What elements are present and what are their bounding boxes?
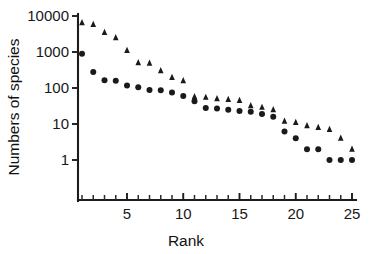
data-point-circle xyxy=(102,77,108,83)
data-point-circle xyxy=(237,108,243,114)
x-tick-label: 10 xyxy=(175,205,192,222)
data-point-triangle xyxy=(237,97,243,103)
data-point-triangle xyxy=(180,77,186,83)
data-point-triangle xyxy=(90,21,96,27)
data-point-triangle xyxy=(304,122,310,128)
data-point-triangle xyxy=(349,145,355,151)
data-point-triangle xyxy=(338,135,344,141)
y-tick-label: 1000 xyxy=(36,43,69,60)
data-point-triangle xyxy=(147,59,153,65)
y-tick-label: 10 xyxy=(52,115,69,132)
data-point-triangle xyxy=(327,126,333,132)
data-point-circle xyxy=(225,107,231,113)
data-point-circle xyxy=(349,157,355,163)
x-tick-label: 20 xyxy=(287,205,304,222)
x-axis-tick-labels: 510152025 xyxy=(123,205,361,222)
data-point-triangle xyxy=(113,34,119,40)
data-point-triangle xyxy=(135,59,141,65)
y-tick-label: 10000 xyxy=(27,7,69,24)
y-tick-label: 100 xyxy=(44,79,69,96)
chart-figure: 110100100010000 510152025 Rank Numbers o… xyxy=(0,0,369,254)
data-point-triangle xyxy=(225,96,231,102)
data-point-triangle xyxy=(293,119,299,125)
data-point-triangle xyxy=(169,74,175,80)
data-point-circle xyxy=(180,93,186,99)
data-point-circle xyxy=(79,51,85,57)
data-point-triangle xyxy=(79,19,85,25)
y-tick-label: 1 xyxy=(61,151,69,168)
y-axis-tick-labels: 110100100010000 xyxy=(27,7,69,168)
data-point-triangle xyxy=(102,29,108,35)
data-point-circle xyxy=(293,135,299,141)
data-point-triangle xyxy=(315,124,321,130)
y-axis-title: Numbers of species xyxy=(5,38,22,175)
data-point-triangle xyxy=(158,67,164,73)
data-point-circle xyxy=(192,98,198,104)
data-point-circle xyxy=(135,84,141,90)
data-point-triangle xyxy=(270,106,276,112)
x-tick-label: 5 xyxy=(123,205,131,222)
data-point-triangle xyxy=(203,94,209,100)
data-point-triangle xyxy=(248,102,254,108)
data-point-circle xyxy=(304,146,310,152)
data-point-triangle xyxy=(214,95,220,101)
series-circles-points xyxy=(79,51,355,163)
data-point-circle xyxy=(169,89,175,95)
data-point-circle xyxy=(147,87,153,93)
data-point-circle xyxy=(270,114,276,120)
data-point-circle xyxy=(315,146,321,152)
scatter-plot-svg: 110100100010000 510152025 Rank Numbers o… xyxy=(0,0,369,254)
data-point-triangle xyxy=(259,104,265,110)
x-axis-title: Rank xyxy=(168,232,204,249)
data-point-circle xyxy=(248,109,254,115)
data-point-triangle xyxy=(282,117,288,123)
data-point-circle xyxy=(90,69,96,75)
data-point-circle xyxy=(282,128,288,134)
x-tick-label: 25 xyxy=(344,205,361,222)
x-tick-label: 15 xyxy=(231,205,248,222)
data-point-circle xyxy=(338,157,344,163)
data-point-circle xyxy=(113,78,119,84)
data-point-circle xyxy=(203,105,209,111)
data-point-circle xyxy=(259,111,265,117)
data-point-circle xyxy=(214,105,220,111)
data-point-circle xyxy=(327,157,333,163)
series-triangles-points xyxy=(79,19,355,152)
data-point-triangle xyxy=(124,47,130,53)
data-point-circle xyxy=(124,82,130,88)
data-point-circle xyxy=(158,87,164,93)
